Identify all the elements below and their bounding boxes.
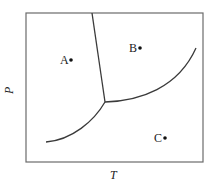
point-c-label: C [154,131,162,145]
point-b-marker [138,46,142,50]
point-b: B [129,41,142,55]
phase-diagram: A B C P T [0,0,215,189]
point-c: C [154,131,167,145]
point-c-marker [163,136,167,140]
plot-frame [26,13,203,162]
point-a: A [60,53,73,67]
solid-gas-boundary [46,102,105,142]
x-axis-label: T [110,168,118,182]
point-b-label: B [129,41,137,55]
liquid-gas-boundary [105,48,196,102]
point-a-marker [69,58,73,62]
point-a-label: A [60,53,69,67]
solid-liquid-boundary [92,13,105,102]
y-axis-label: P [2,86,16,95]
